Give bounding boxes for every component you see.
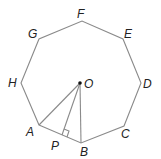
label-D: D xyxy=(143,77,152,91)
octagon-diagram: F G E H D A C B P O xyxy=(0,0,161,159)
segment-OB xyxy=(80,83,81,143)
label-P: P xyxy=(51,139,59,153)
label-C: C xyxy=(121,127,130,141)
segment-OP xyxy=(62,83,80,135)
label-O: O xyxy=(84,77,93,91)
label-G: G xyxy=(28,27,37,41)
segment-OA xyxy=(39,83,80,125)
center-point xyxy=(78,81,82,85)
label-F: F xyxy=(77,7,85,21)
label-B: B xyxy=(80,145,88,159)
label-H: H xyxy=(8,76,17,90)
label-E: E xyxy=(124,27,133,41)
label-A: A xyxy=(25,125,34,139)
